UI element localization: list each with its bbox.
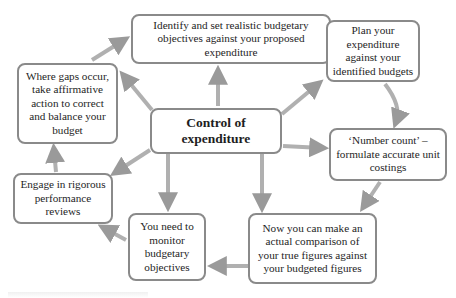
node-control-of-expenditure: Control of expenditure [150,108,282,154]
node-label: You need to monitor budgetary objectives [134,220,200,274]
arrow-control-to-gaps [124,76,152,110]
node-performance-reviews: Engage in rigorous performance reviews [13,173,113,224]
node-label: Identify and set realistic budgetary obj… [137,19,325,60]
arrow-reviews-to-gaps [54,150,56,172]
arrow-control-to-number-count [283,146,322,148]
node-identify-objectives: Identify and set realistic budgetary obj… [131,14,331,64]
node-label: Control of expenditure [156,115,276,147]
node-label: Where gaps occur, take affirmative actio… [23,70,112,138]
node-label: Now you can make an actual comparison of… [254,222,371,276]
node-number-count: ‘Number count’ – formulate accurate unit… [329,128,447,181]
arrow-control-to-plan [282,84,318,114]
node-actual-comparison: Now you can make an actual comparison of… [248,213,377,284]
arrow-gaps-to-identify [92,40,124,60]
arrow-number-count-to-comparison [364,182,380,206]
node-monitor-objectives: You need to monitor budgetary objectives [128,213,206,281]
arrow-monitor-to-reviews [104,228,126,240]
node-where-gaps-occur: Where gaps occur, take affirmative actio… [17,63,118,144]
node-label: Engage in rigorous performance reviews [19,178,107,219]
node-label: Plan your expenditure against your ident… [332,24,414,78]
cropped-caption-fragment [8,292,148,298]
arrow-plan-to-number-count [385,84,398,122]
node-label: ‘Number count’ – formulate accurate unit… [335,134,441,175]
node-plan-expenditure: Plan your expenditure against your ident… [326,20,420,82]
arrow-control-to-reviews [116,150,150,172]
